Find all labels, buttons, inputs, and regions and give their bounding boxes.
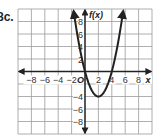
x-tick-label: −8 [26,75,36,85]
origin-label: O [77,75,84,85]
x-axis-label: x [144,75,151,85]
x-tick-label: 8 [136,75,141,85]
y-axis-label: f(x) [89,10,103,20]
x-tick-label: 6 [123,75,128,85]
x-tick-label: −6 [40,75,50,85]
y-tick-label: −6 [73,105,83,115]
x-tick-label: −4 [53,75,63,85]
y-tick-label: 8 [78,17,83,27]
parabola-chart: −8−6−4−22468Ox8642−4−6−8f(x) [0,0,153,139]
y-tick-label: −4 [73,92,83,102]
y-tick-label: −8 [73,117,83,127]
x-tick-label: 2 [96,75,101,85]
x-tick-label: −2 [66,75,76,85]
